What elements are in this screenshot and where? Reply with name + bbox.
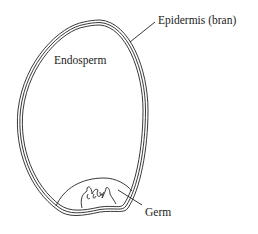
bran-outer: [17, 20, 148, 216]
label-endosperm: Endosperm: [54, 54, 106, 66]
label-germ: Germ: [145, 206, 171, 218]
scutellum: [81, 187, 116, 208]
kernel-drawing: [0, 0, 258, 234]
kernel-diagram: Epidermis (bran) Endosperm Germ: [0, 0, 258, 234]
leader-bran: [130, 22, 155, 42]
bran-inner: [22, 25, 143, 210]
bran-middle: [20, 23, 146, 213]
label-epidermis: Epidermis (bran): [158, 14, 236, 26]
germ-inner-1: [87, 192, 104, 199]
